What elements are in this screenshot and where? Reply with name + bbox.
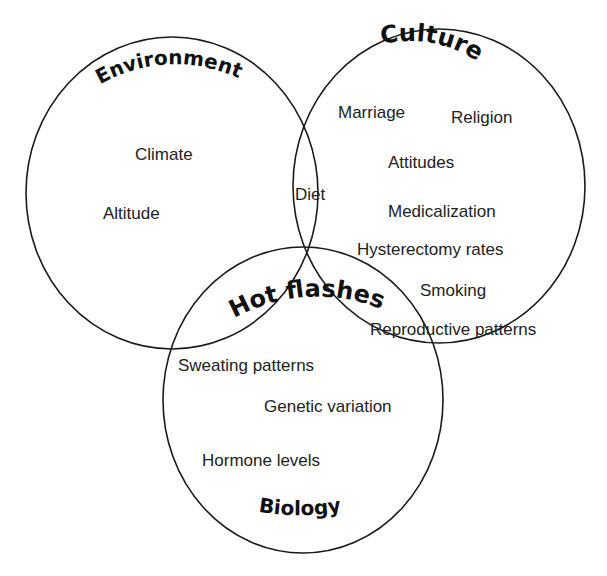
- item-altitude: Altitude: [103, 204, 160, 223]
- item-medicalization: Medicalization: [388, 202, 496, 221]
- item-hysterectomy-rates: Hysterectomy rates: [357, 240, 503, 259]
- item-climate: Climate: [135, 145, 193, 164]
- item-marriage: Marriage: [338, 103, 405, 122]
- item-religion: Religion: [451, 108, 512, 127]
- venn-diagram: Environment Culture Hot flashes Biology …: [0, 0, 607, 576]
- culture-title: Culture: [378, 19, 488, 67]
- biology-title: Biology: [258, 493, 343, 520]
- item-hormone-levels: Hormone levels: [202, 451, 320, 470]
- item-sweating-patterns: Sweating patterns: [178, 356, 314, 375]
- item-reproductive-patterns: Reproductive patterns: [370, 320, 536, 339]
- item-attitudes: Attitudes: [388, 153, 454, 172]
- item-diet: Diet: [295, 185, 326, 204]
- item-genetic-variation: Genetic variation: [264, 397, 392, 416]
- item-smoking: Smoking: [420, 281, 486, 300]
- hot-flashes-title: Hot flashes: [224, 274, 388, 323]
- environment-title: Environment: [91, 45, 246, 88]
